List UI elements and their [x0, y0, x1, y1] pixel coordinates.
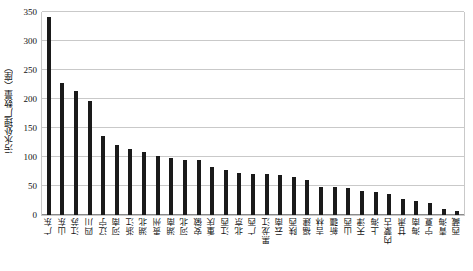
x-axis-tick-label: 上海	[371, 217, 382, 239]
y-axis-title: 污水处理厂数量（座）	[0, 0, 16, 215]
y-axis-title-text: 污水处理厂数量（座）	[3, 63, 13, 153]
x-axis-tick-label-text: 河南	[113, 217, 123, 235]
x-axis-tick-label-text: 福建	[304, 217, 314, 235]
x-axis-tick-label-text: 甘肃	[399, 217, 409, 235]
bar	[401, 199, 405, 215]
bar-chart: 污水处理厂数量（座） 050100150200250300350 广东山东江苏四…	[0, 0, 473, 271]
bar	[224, 170, 228, 215]
x-axis-tick-label: 山西	[344, 217, 355, 239]
x-axis-tick-label: 吉林	[317, 217, 328, 239]
x-axis-tick-label-text: 新疆	[331, 217, 341, 235]
bar	[101, 136, 105, 215]
y-axis-tick-label: 100	[24, 153, 38, 162]
x-axis-tick-label: 内蒙古	[385, 217, 396, 248]
x-axis-tick-label-text: 安徽	[195, 217, 205, 235]
x-axis-tick-label-text: 浙江	[127, 217, 137, 235]
x-axis-tick-label: 甘肃	[398, 217, 409, 239]
x-axis-tick-label: 黑龙江	[262, 217, 273, 248]
x-axis-tick-label-text: 湖南	[168, 217, 178, 235]
x-axis-tick-label: 河北	[180, 217, 191, 239]
y-axis-tick-label: 0	[33, 211, 38, 220]
bar	[346, 188, 350, 215]
bar	[156, 156, 160, 215]
bar	[60, 83, 64, 215]
bar	[128, 149, 132, 215]
bar	[197, 160, 201, 215]
bar	[428, 203, 432, 215]
x-axis-tick-label: 湖北	[140, 217, 151, 239]
x-axis-tick-label: 广西	[249, 217, 260, 239]
x-axis-tick-label: 北京	[235, 217, 246, 239]
x-axis-tick-label: 浙江	[126, 217, 137, 239]
x-axis-tick-label-text: 内蒙古	[385, 217, 395, 244]
x-axis-tick-label: 海南	[412, 217, 423, 239]
x-axis-tick-label-text: 宁夏	[426, 217, 436, 235]
x-axis-tick-label: 安徽	[194, 217, 205, 239]
y-axis-tick-label: 300	[24, 37, 38, 46]
x-axis-tick-label-text: 辽宁	[100, 217, 110, 235]
x-axis-tick-label-text: 西藏	[453, 217, 463, 235]
x-axis-tick-label: 重庆	[208, 217, 219, 239]
x-axis-tick-label: 福建	[303, 217, 314, 239]
x-axis-tick-label-text: 湖北	[140, 217, 150, 235]
x-axis-tick-label: 四川	[85, 217, 96, 239]
x-axis-tick-label: 广东	[44, 217, 55, 239]
x-axis-tick-labels: 广东山东江苏四川辽宁河南浙江湖北贵州湖南河北安徽重庆江西北京广西黑龙江云南陕西福…	[41, 217, 465, 271]
bar	[442, 209, 446, 215]
x-axis-tick-label-text: 江西	[222, 217, 232, 235]
y-axis-tick-label: 50	[28, 182, 37, 191]
bar	[360, 191, 364, 215]
bar	[251, 174, 255, 215]
bar	[387, 194, 391, 215]
bars-layer	[42, 12, 464, 215]
x-axis-tick-label-text: 重庆	[208, 217, 218, 235]
x-axis-tick-label-text: 四川	[86, 217, 96, 235]
y-axis-tick-label: 350	[24, 8, 38, 17]
x-axis-tick-label: 云南	[276, 217, 287, 239]
x-axis-tick-label-text: 海南	[413, 217, 423, 235]
x-axis-tick-label: 青海	[439, 217, 450, 239]
y-axis-tick-label: 250	[24, 66, 38, 75]
bar	[210, 167, 214, 215]
x-axis-tick-label: 辽宁	[99, 217, 110, 239]
x-axis-tick-label: 贵州	[153, 217, 164, 239]
x-axis-tick-label: 西藏	[453, 217, 464, 239]
bar	[183, 160, 187, 215]
x-axis-tick-label-text: 贵州	[154, 217, 164, 235]
x-axis-tick-label-text: 山东	[59, 217, 69, 235]
x-axis-tick-label-text: 天津	[358, 217, 368, 235]
x-axis-tick-label-text: 北京	[236, 217, 246, 235]
x-axis-tick-label-text: 山西	[345, 217, 355, 235]
bar	[374, 192, 378, 215]
bar	[455, 211, 459, 215]
bar	[278, 175, 282, 215]
x-axis-tick-label-text: 河北	[181, 217, 191, 235]
x-axis-tick-label: 宁夏	[425, 217, 436, 239]
bar	[88, 101, 92, 215]
x-axis-tick-label: 江西	[221, 217, 232, 239]
y-axis-tick-label: 150	[24, 124, 38, 133]
x-axis-tick-label-text: 青海	[440, 217, 450, 235]
x-axis-tick-label-text: 黑龙江	[263, 217, 273, 244]
bar	[115, 145, 119, 215]
bar	[142, 152, 146, 215]
x-axis-tick-label-text: 广西	[249, 217, 259, 235]
x-axis-tick-label: 湖南	[167, 217, 178, 239]
bar	[169, 158, 173, 215]
y-axis-tick-labels: 050100150200250300350	[16, 0, 40, 220]
bar	[333, 187, 337, 215]
bar	[292, 177, 296, 215]
bar	[237, 173, 241, 215]
x-axis-tick-label: 江苏	[72, 217, 83, 239]
x-axis-tick-label: 河南	[112, 217, 123, 239]
bar	[265, 174, 269, 215]
x-axis-tick-label: 陕西	[289, 217, 300, 239]
x-axis-tick-label: 山东	[58, 217, 69, 239]
bar	[305, 180, 309, 215]
x-axis-tick-label: 新疆	[330, 217, 341, 239]
x-axis-tick-label-text: 陕西	[290, 217, 300, 235]
x-axis-tick-label-text: 吉林	[317, 217, 327, 235]
x-axis-tick-label-text: 江苏	[72, 217, 82, 235]
plot-area	[41, 12, 465, 216]
bar	[47, 17, 51, 215]
